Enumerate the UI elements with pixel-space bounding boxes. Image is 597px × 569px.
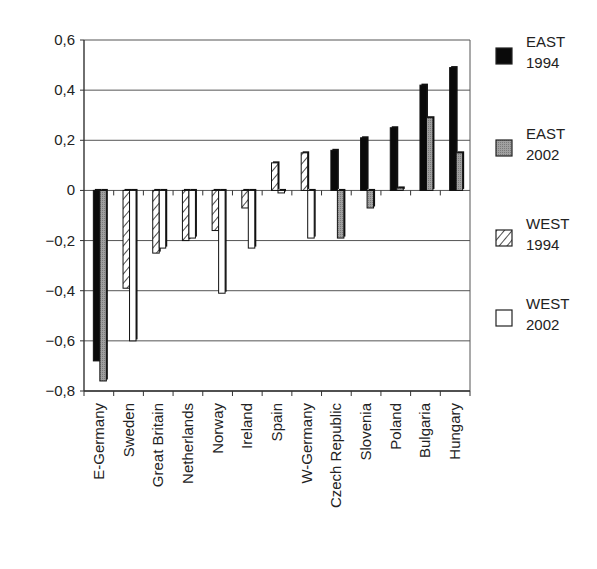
x-tick-label: Ireland — [238, 403, 255, 449]
bar-west-2002 — [308, 190, 315, 238]
legend-label-year: 2002 — [526, 146, 559, 163]
bar-east-1994 — [331, 150, 338, 190]
bar-west-2002 — [278, 190, 285, 193]
x-tick-label: Norway — [209, 403, 226, 454]
bar-east-2002 — [426, 118, 433, 191]
bar-west-1994 — [123, 190, 129, 288]
x-tick-label: Spain — [268, 403, 285, 441]
x-tick-label: Netherlands — [179, 403, 196, 484]
legend-swatch — [496, 230, 512, 246]
legend-item: WEST2002 — [496, 295, 569, 333]
legend-label: EAST — [526, 33, 565, 50]
legend-label-year: 1994 — [526, 54, 559, 71]
bar-west-2002 — [248, 190, 255, 248]
bar-east-2002 — [337, 190, 344, 238]
bar-east-1994 — [390, 128, 397, 191]
bars — [93, 66, 464, 381]
x-tick-label: E-Germany — [90, 403, 107, 480]
bar-west-1994 — [212, 190, 219, 230]
bar-west-1994 — [242, 190, 249, 208]
legend-label: WEST — [526, 295, 569, 312]
bar-west-2002 — [130, 190, 137, 340]
bar-east-1994 — [361, 138, 368, 191]
legend-item: WEST1994 — [496, 215, 569, 253]
bar-east-1994 — [420, 85, 427, 190]
bar-east-2002 — [367, 190, 374, 208]
y-tick-label: 0 — [67, 181, 75, 198]
x-tick-label: Czech Republic — [327, 403, 344, 509]
y-tick-label: −0,6 — [45, 332, 75, 349]
x-tick-label: Great Britain — [149, 403, 166, 487]
x-tick-label: Bulgaria — [416, 402, 433, 458]
y-tick-label: 0,2 — [54, 131, 75, 148]
legend-swatch — [496, 140, 512, 156]
bar-west-1994 — [272, 163, 279, 191]
bar-west-1994 — [182, 190, 189, 240]
bar-east-1994 — [93, 190, 100, 360]
y-tick-label: 0,6 — [54, 31, 75, 48]
y-tick-label: −0,8 — [45, 382, 75, 399]
x-tick-label: W-Germany — [298, 403, 315, 484]
bar-east-1994 — [450, 68, 457, 191]
y-tick-label: −0,4 — [45, 282, 75, 299]
y-tick-label: −0,2 — [45, 232, 75, 249]
x-tick-label: Slovenia — [357, 402, 374, 460]
legend: EAST1994EAST2002WEST1994WEST2002 — [496, 33, 569, 333]
bar-west-2002 — [189, 190, 196, 238]
y-axis: 0,60,40,20−0,2−0,4−0,6−0,8 — [45, 31, 470, 399]
x-tick-label: Sweden — [120, 403, 137, 457]
legend-item: EAST1994 — [496, 33, 565, 71]
legend-swatch — [496, 48, 512, 64]
bar-east-2002 — [397, 188, 404, 191]
legend-label-year: 2002 — [526, 316, 559, 333]
legend-label: WEST — [526, 215, 569, 232]
legend-label: EAST — [526, 125, 565, 142]
legend-label-year: 1994 — [526, 236, 559, 253]
legend-item: EAST2002 — [496, 125, 565, 163]
bar-west-1994 — [301, 153, 308, 191]
bar-west-2002 — [159, 190, 166, 248]
y-tick-label: 0,4 — [54, 81, 75, 98]
gridlines — [84, 40, 470, 391]
x-tick-label: Poland — [387, 403, 404, 450]
bar-east-2002 — [100, 190, 107, 381]
x-tick-label: Hungary — [446, 403, 463, 460]
bar-west-1994 — [153, 190, 160, 253]
bar-chart: 0,60,40,20−0,2−0,4−0,6−0,8 E-GermanySwed… — [0, 0, 597, 569]
x-axis: E-GermanySwedenGreat BritainNetherlandsN… — [84, 190, 470, 508]
legend-swatch — [496, 310, 512, 326]
bar-east-2002 — [456, 153, 463, 191]
bar-west-2002 — [219, 190, 226, 293]
